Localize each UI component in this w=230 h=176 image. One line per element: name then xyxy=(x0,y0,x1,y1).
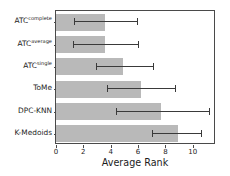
y-axis-category-label: ATCaverage xyxy=(17,40,52,47)
error-bar xyxy=(152,133,201,134)
error-bar-cap xyxy=(107,85,108,92)
y-axis-tick xyxy=(54,22,57,23)
error-bar xyxy=(73,44,138,45)
error-bar xyxy=(116,111,209,112)
error-bar-cap xyxy=(137,18,138,25)
x-axis-title: Average Rank xyxy=(55,158,215,168)
error-bar-cap xyxy=(175,85,176,92)
bar-row xyxy=(56,56,216,78)
x-axis-tick-label: 6 xyxy=(128,149,148,156)
error-bar-cap xyxy=(138,41,139,48)
plot-area: 0246810 xyxy=(55,10,215,144)
y-axis-category-label: DPC-KNN xyxy=(18,107,52,114)
x-axis-tick-label: 0 xyxy=(46,149,66,156)
x-axis-tick-label: 4 xyxy=(101,149,121,156)
error-bar xyxy=(74,21,137,22)
error-bar xyxy=(107,88,175,89)
y-axis-tick xyxy=(54,45,57,46)
error-bar-cap xyxy=(152,130,153,137)
x-axis-tick-label: 2 xyxy=(73,149,93,156)
error-bar-cap xyxy=(116,108,117,115)
y-axis-category-label: ATCcomplete xyxy=(14,17,52,24)
y-axis-tick xyxy=(54,89,57,90)
bar-row xyxy=(56,33,216,55)
bar-row xyxy=(56,11,216,33)
y-axis-tick xyxy=(54,134,57,135)
error-bar-cap xyxy=(209,108,210,115)
error-bar-cap xyxy=(96,63,97,70)
bar-row xyxy=(56,78,216,100)
chart-container: 0246810 Average Rank ATCcompleteATCavera… xyxy=(0,0,230,176)
y-axis-tick xyxy=(54,67,57,68)
error-bar xyxy=(96,66,153,67)
y-axis-category-label: ATCsingle xyxy=(23,62,52,69)
error-bar-cap xyxy=(201,130,202,137)
error-bar-cap xyxy=(74,18,75,25)
y-axis-category-label: ToMe xyxy=(33,84,52,91)
y-axis-tick xyxy=(54,112,57,113)
x-axis-tick-label: 8 xyxy=(155,149,175,156)
y-axis-category-label: K-Medoids xyxy=(15,129,52,136)
x-axis-tick-label: 10 xyxy=(183,149,203,156)
error-bar-cap xyxy=(73,41,74,48)
error-bar-cap xyxy=(153,63,154,70)
bar-row xyxy=(56,100,216,122)
bar-row xyxy=(56,123,216,145)
